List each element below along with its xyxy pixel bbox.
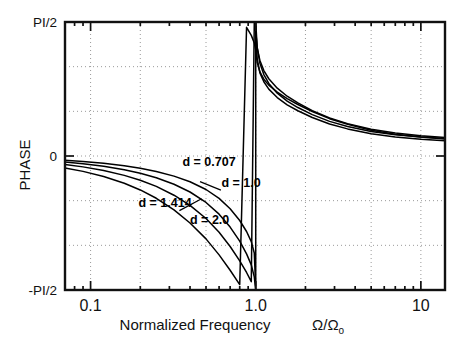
x-axis-label: Normalized Frequency [120,316,271,333]
phase-response-figure: 0.11.010 PI/20-PI/2 d = 0.707d = 1.0d = … [0,0,469,350]
curve-annotation-label: d = 2.0 [190,213,229,227]
x-tick-label: 0.1 [79,297,101,314]
phase-response-chart: 0.11.010 PI/20-PI/2 d = 0.707d = 1.0d = … [0,0,469,350]
x-tick-label: 10 [412,297,430,314]
y-tick-label: -PI/2 [28,283,57,298]
y-tick-label: 0 [49,149,57,164]
y-tick-label: PI/2 [33,15,57,30]
y-axis-label: PHASE [16,140,33,191]
curve-annotation-label: d = 0.707 [182,155,235,169]
curve-annotation-label: d = 1.0 [221,176,260,190]
x-tick-label: 1.0 [245,297,267,314]
